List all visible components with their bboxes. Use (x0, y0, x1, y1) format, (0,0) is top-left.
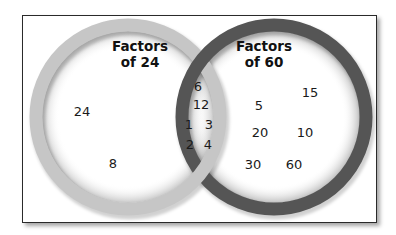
set-a-element: 8 (109, 157, 117, 170)
intersection-element: 3 (205, 118, 213, 131)
set-b-title: Factors of 60 (236, 38, 292, 70)
set-b-title-line1: Factors (236, 38, 292, 54)
set-a-title-line2: of 24 (112, 54, 168, 70)
set-b-element: 30 (245, 158, 262, 171)
set-a-title-line1: Factors (112, 38, 168, 54)
set-b-element: 15 (302, 86, 319, 99)
set-b-element: 60 (286, 158, 303, 171)
set-a-title: Factors of 24 (112, 38, 168, 70)
intersection-element: 4 (204, 138, 212, 151)
set-b-element: 10 (297, 126, 314, 139)
set-b-title-line2: of 60 (236, 54, 292, 70)
set-b-element: 20 (252, 126, 269, 139)
intersection-element: 12 (193, 98, 210, 111)
venn-diagram (0, 0, 396, 235)
set-b-element: 5 (255, 99, 263, 112)
intersection-element: 6 (194, 80, 202, 93)
intersection-element: 1 (185, 118, 193, 131)
intersection-element: 2 (186, 138, 194, 151)
set-a-element: 24 (74, 105, 91, 118)
